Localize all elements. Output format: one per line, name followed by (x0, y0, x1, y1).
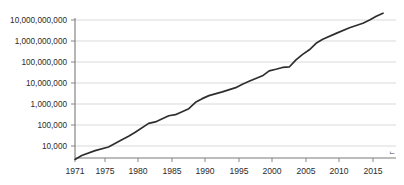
x-axis: 1971 1975 1980 1985 1990 1995 2000 2005 … (65, 158, 396, 176)
y-tick-label-100000000: 100,000,000 (21, 58, 67, 67)
y-tick-label-10000: 10,000 (42, 142, 67, 151)
x-tick-label-1990: 1990 (195, 166, 214, 176)
x-tick-label-1971: 1971 (65, 166, 84, 176)
x-tick-label-1995: 1995 (229, 166, 248, 176)
y-tick-label-100000: 100,000 (37, 121, 67, 130)
x-tick-label-1980: 1980 (128, 166, 147, 176)
y-axis: 10,000,000,000 1,000,000,000 100,000,000… (10, 16, 75, 158)
transistor-count-line (75, 13, 383, 159)
x-tick-label-2000: 2000 (262, 166, 281, 176)
y-tick-label-1000000: 1,000,000 (31, 100, 68, 109)
x-tick-label-2010: 2010 (329, 166, 348, 176)
y-tick-label-1000000000: 1,000,000,000 (15, 37, 68, 46)
transistor-count-chart: 10,000,000,000 1,000,000,000 100,000,000… (0, 0, 404, 185)
x-tick-label-1985: 1985 (162, 166, 181, 176)
gridlines-group (75, 20, 396, 146)
x-tick-label-1975: 1975 (95, 166, 114, 176)
y-tick-label-10000000: 10,000,000 (26, 79, 67, 88)
y-tick-label-10000000000: 10,000,000,000 (10, 16, 67, 25)
axis-corner-glyph: ᄂ (389, 151, 395, 158)
chart-plot-area: 10,000,000,000 1,000,000,000 100,000,000… (0, 0, 404, 185)
x-tick-label-2015: 2015 (363, 166, 382, 176)
x-tick-label-2005: 2005 (296, 166, 315, 176)
